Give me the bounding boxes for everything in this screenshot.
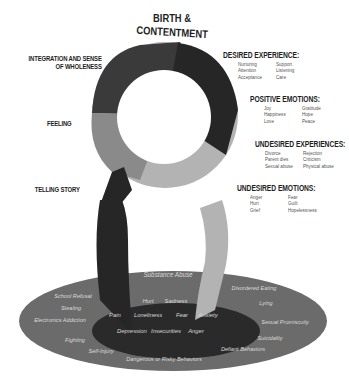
- svg-text:Fear: Fear: [176, 312, 189, 318]
- label-feeling: FEELING: [47, 120, 72, 128]
- svg-text:Self-Injury: Self-Injury: [88, 348, 114, 354]
- ring-hole: [117, 70, 211, 164]
- title-line2: CONTENTMENT: [136, 24, 209, 40]
- svg-text:Stealing: Stealing: [61, 305, 82, 311]
- svg-text:Fighting: Fighting: [65, 337, 86, 343]
- section-heading: UNDESIRED EMOTIONS:: [237, 183, 315, 193]
- section-heading: DESIRED EXPERIENCE:: [223, 50, 299, 60]
- svg-text:Electronics Addiction: Electronics Addiction: [34, 317, 86, 323]
- section-heading: UNDESIRED EXPERIENCES:: [255, 139, 345, 149]
- svg-text:Suicidality: Suicidality: [257, 335, 283, 341]
- svg-text:Depression: Depression: [117, 328, 148, 334]
- diagram-title: BIRTH & CONTENTMENT: [136, 12, 209, 40]
- svg-text:Sexual Promiscuity: Sexual Promiscuity: [261, 319, 310, 325]
- svg-text:Insecurities: Insecurities: [151, 328, 181, 334]
- svg-text:Defiant Behaviors: Defiant Behaviors: [221, 346, 265, 352]
- svg-text:Pain: Pain: [109, 312, 122, 318]
- svg-text:Hurt: Hurt: [142, 298, 153, 304]
- section-desired-experience: DESIRED EXPERIENCE: NurturingSupport Att…: [223, 50, 325, 81]
- label-substance-abuse: Substance Abuse: [143, 271, 193, 278]
- section-undesired-emotions: UNDESIRED EMOTIONS: AngerFear HurtGuilt …: [237, 183, 342, 214]
- title-line1: BIRTH &: [153, 12, 191, 24]
- svg-text:School Refusal: School Refusal: [54, 293, 92, 299]
- label-telling-story: TELLING STORY: [35, 186, 80, 194]
- section-undesired-experiences: UNDESIRED EXPERIENCES: DivorceRejection …: [255, 139, 349, 170]
- section-positive-emotions: POSITIVE EMOTIONS: JoyGratitude Happines…: [250, 94, 343, 125]
- svg-text:Anger: Anger: [187, 328, 205, 334]
- label-integration: INTEGRATION AND SENSE OF WHOLENESS: [29, 55, 102, 72]
- section-heading: POSITIVE EMOTIONS:: [250, 94, 320, 104]
- svg-text:Dangerous or Risky Behaviors: Dangerous or Risky Behaviors: [126, 356, 202, 362]
- svg-text:Loneliness: Loneliness: [134, 312, 162, 318]
- svg-text:Sadness: Sadness: [165, 298, 188, 304]
- svg-text:Disordered Eating: Disordered Eating: [232, 285, 278, 291]
- svg-text:Anxiety: Anxiety: [197, 312, 218, 318]
- svg-text:Lying: Lying: [259, 300, 273, 306]
